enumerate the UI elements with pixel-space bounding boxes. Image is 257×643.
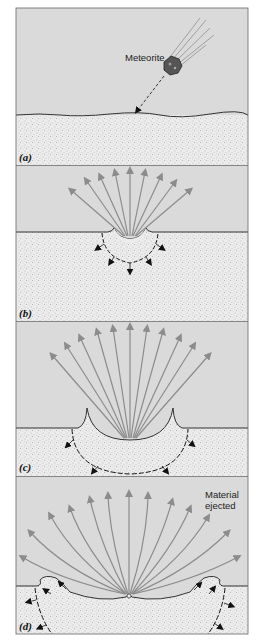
panel-b: (b) xyxy=(16,166,248,321)
panel-d-label: (d) xyxy=(19,620,32,633)
panel-c: (c) xyxy=(16,322,248,476)
material-ejected-label-line2: ejected xyxy=(205,500,236,511)
panel-a-label: (a) xyxy=(19,151,32,164)
material-ejected-label-line1: Material xyxy=(205,489,239,500)
panel-a: Meteorite (a) xyxy=(16,8,248,165)
panel-d: Material ejected (d) xyxy=(16,477,248,634)
meteorite-label: Meteorite xyxy=(125,52,165,63)
crater-formation-figure: Meteorite (a) xyxy=(0,0,257,643)
crater-diagram-svg: Meteorite (a) xyxy=(0,0,257,643)
panel-b-label: (b) xyxy=(19,307,32,320)
panel-c-label: (c) xyxy=(19,461,31,474)
